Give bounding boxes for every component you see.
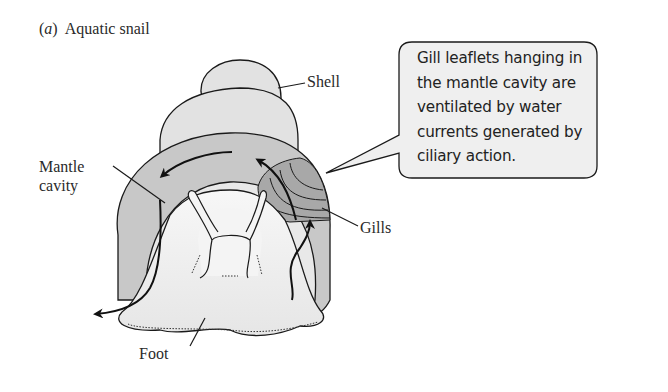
label-mantle-line2: cavity xyxy=(39,176,78,195)
label-foot: Foot xyxy=(139,344,168,363)
callout-line: the mantle cavity are xyxy=(417,71,597,96)
callout-line: Gill leaflets hanging in xyxy=(417,46,597,71)
label-mantle-line1: Mantle xyxy=(39,157,84,176)
label-gills: Gills xyxy=(360,218,391,237)
callout-text: Gill leaflets hanging in the mantle cavi… xyxy=(417,46,597,169)
callout-line: currents generated by xyxy=(417,120,597,145)
callout-line: ventilated by water xyxy=(417,95,597,120)
leader-shell xyxy=(278,83,305,88)
label-shell: Shell xyxy=(307,72,340,91)
callout-line: ciliary action. xyxy=(417,144,597,169)
